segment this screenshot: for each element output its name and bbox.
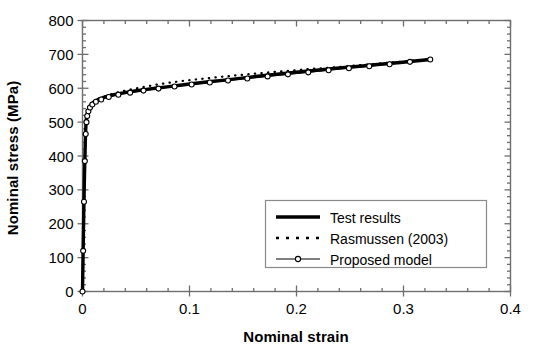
series-marker <box>285 72 290 77</box>
y-tick-label: 600 <box>48 80 73 97</box>
series-marker <box>141 88 146 93</box>
series-marker <box>265 74 270 79</box>
series-marker <box>387 62 392 67</box>
x-tick-label: 0.3 <box>393 300 414 317</box>
series-marker <box>428 57 433 62</box>
y-tick-label: 200 <box>48 215 73 232</box>
y-tick-label: 0 <box>65 283 73 300</box>
series-marker <box>106 95 111 100</box>
series-marker <box>85 114 90 119</box>
series-marker <box>80 289 85 294</box>
x-tick-label: 0 <box>78 300 86 317</box>
series-marker <box>207 80 212 85</box>
y-tick-label: 800 <box>48 12 73 29</box>
series-marker <box>84 120 89 125</box>
series-marker <box>172 84 177 89</box>
series-marker <box>367 64 372 69</box>
x-tick-label: 0.1 <box>179 300 200 317</box>
legend-item-label: Test results <box>330 210 401 226</box>
series-marker <box>116 92 121 97</box>
series-marker <box>326 68 331 73</box>
series-marker <box>99 97 104 102</box>
x-axis-title: Nominal strain <box>243 328 349 345</box>
x-tick-label: 0.2 <box>286 300 307 317</box>
series-marker <box>156 86 161 91</box>
y-tick-label: 300 <box>48 181 73 198</box>
series-marker <box>306 70 311 75</box>
y-tick-label: 400 <box>48 148 73 165</box>
series-marker <box>82 199 87 204</box>
legend-swatch-marker <box>295 256 300 261</box>
y-tick-label: 500 <box>48 114 73 131</box>
series-marker <box>128 90 133 95</box>
y-axis-tick-labels: 0100200300400500600700800 <box>48 12 73 300</box>
series-marker <box>82 159 87 164</box>
series-marker <box>83 131 88 136</box>
series-marker <box>226 78 231 83</box>
legend-item-label: Proposed model <box>330 252 432 268</box>
legend-item-label: Rasmussen (2003) <box>330 231 448 247</box>
series-marker <box>81 248 86 253</box>
series-marker <box>346 66 351 71</box>
x-tick-label: 0.4 <box>500 300 521 317</box>
y-tick-label: 100 <box>48 249 73 266</box>
stress-strain-chart: 00.10.20.30.4 0100200300400500600700800 … <box>0 0 535 356</box>
series-marker <box>189 82 194 87</box>
y-tick-label: 700 <box>48 46 73 63</box>
y-axis-title: Nominal stress (MPa) <box>4 81 21 236</box>
series-marker <box>245 76 250 81</box>
chart-legend: Test resultsRasmussen (2003)Proposed mod… <box>266 201 487 268</box>
series-marker <box>407 59 412 64</box>
series-marker <box>93 99 98 104</box>
chart-canvas: 00.10.20.30.4 0100200300400500600700800 … <box>0 0 535 356</box>
